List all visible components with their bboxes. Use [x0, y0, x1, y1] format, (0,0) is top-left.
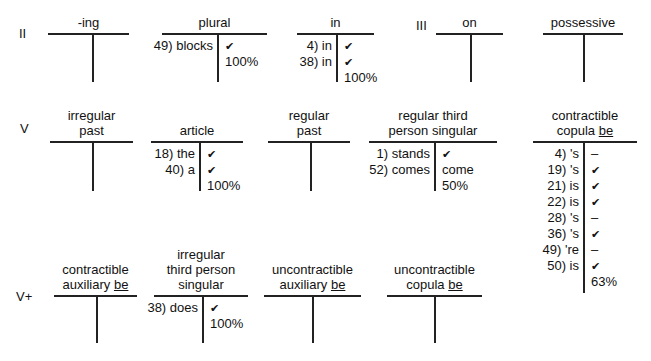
t-chart-title: uncontractiblecopula be	[394, 262, 475, 292]
title-line: person singular	[389, 123, 478, 138]
utterance-column: 38) does	[147, 300, 198, 316]
t-chart-horizontal-line	[162, 33, 267, 35]
check-mark-icon: ✔	[591, 226, 617, 242]
t-chart-title: regular thirdperson singular	[389, 108, 478, 138]
score-column: ✔✔100%	[344, 38, 377, 86]
t-chart-title: uncontractibleauxiliary be	[272, 262, 353, 292]
check-mark-icon: ✔	[591, 258, 617, 274]
check-mark-icon: ✔	[591, 162, 617, 178]
title-line: copula be	[552, 123, 618, 138]
title-line: in	[330, 15, 340, 30]
t-chart-vertical-line	[92, 141, 94, 191]
check-mark-icon: ✔	[591, 178, 617, 194]
percentage-score: 100%	[225, 54, 258, 70]
title-line: auxiliary be	[272, 277, 353, 292]
title-underlined-word: be	[331, 277, 345, 292]
utterance-entry: 1) stands	[369, 146, 430, 162]
t-chart-title: plural	[199, 15, 231, 30]
title-line: irregular	[68, 108, 116, 123]
t-chart-title: possessive	[551, 15, 615, 30]
t-chart-horizontal-line	[268, 141, 350, 143]
t-chart-title: irregularthird personsingular	[167, 247, 236, 292]
title-line: past	[68, 123, 116, 138]
t-chart-vertical-line	[199, 141, 201, 191]
check-mark-icon: ✔	[210, 300, 243, 316]
dash-icon: –	[591, 242, 617, 258]
t-chart-vertical-line	[92, 33, 94, 82]
t-chart-horizontal-line	[533, 141, 637, 143]
utterance-entry: 38) in	[299, 54, 332, 70]
utterance-entry: 50) is	[543, 258, 579, 274]
title-line: regular third	[389, 108, 478, 123]
utterance-entry: 38) does	[147, 300, 198, 316]
utterance-entry: 19) 's	[543, 162, 579, 178]
title-line: plural	[199, 15, 231, 30]
utterance-column: 49) blocks	[154, 38, 213, 54]
t-chart-vertical-line	[312, 295, 314, 343]
t-chart-title: contractibleauxiliary be	[62, 262, 128, 292]
title-line: uncontractible	[272, 262, 353, 277]
utterance-entry: 4) 's	[543, 146, 579, 162]
utterance-entry: 49) 're	[543, 242, 579, 258]
score-column: ✔come50%	[442, 146, 474, 194]
t-chart-vertical-line	[96, 295, 98, 343]
t-chart-vertical-line	[434, 141, 436, 191]
utterance-entry: 28) 's	[543, 210, 579, 226]
t-chart-title: in	[330, 15, 340, 30]
score-column: ✔100%	[225, 38, 258, 70]
dash-icon: –	[591, 146, 617, 162]
dash-icon: –	[591, 210, 617, 226]
title-underlined-word: be	[599, 123, 613, 138]
utterance-entry: 22) is	[543, 194, 579, 210]
utterance-column: 18) the40) a	[155, 146, 195, 178]
check-mark-icon: ✔	[344, 38, 377, 54]
utterance-entry: 52) comes	[369, 162, 430, 178]
percentage-score: 50%	[442, 178, 474, 194]
t-chart-title: irregularpast	[68, 108, 116, 138]
t-chart-vertical-line	[583, 33, 585, 82]
percentage-score: 100%	[207, 178, 240, 194]
title-line: irregular	[167, 247, 236, 262]
utterance-entry: 4) in	[299, 38, 332, 54]
percentage-score: 100%	[210, 316, 243, 332]
check-mark-icon: ✔	[225, 38, 258, 54]
title-line: possessive	[551, 15, 615, 30]
stage-label-ii: II	[19, 26, 26, 41]
t-chart-horizontal-line	[369, 141, 497, 143]
t-chart-title: regularpast	[289, 108, 329, 138]
utterance-entry: 21) is	[543, 178, 579, 194]
score-entry: come	[442, 162, 474, 178]
check-mark-icon: ✔	[344, 54, 377, 70]
score-column: ✔100%	[210, 300, 243, 332]
title-underlined-word: be	[448, 277, 462, 292]
stage-label-v-plus: V+	[16, 289, 32, 304]
title-line: regular	[289, 108, 329, 123]
stage-label-iii: III	[416, 18, 427, 33]
utterance-column: 1) stands52) comes	[369, 146, 430, 178]
title-line: copula be	[394, 277, 475, 292]
t-chart-vertical-line	[434, 295, 436, 343]
utterance-entry: 36) 's	[543, 226, 579, 242]
utterance-entry: 49) blocks	[154, 38, 213, 54]
utterance-column: 4) in38) in	[299, 38, 332, 70]
check-mark-icon: ✔	[591, 194, 617, 210]
title-line: contractible	[552, 108, 618, 123]
t-chart-vertical-line	[336, 33, 338, 82]
score-column: –✔✔✔–✔–✔63%	[591, 146, 617, 290]
check-mark-icon: ✔	[207, 162, 240, 178]
percentage-score: 100%	[344, 70, 377, 86]
title-line: third person	[167, 262, 236, 277]
t-chart-title: on	[462, 15, 476, 30]
title-line: -ing	[78, 15, 100, 30]
t-chart-vertical-line	[583, 141, 585, 293]
t-chart-title: article	[180, 123, 215, 138]
percentage-score: 63%	[591, 274, 617, 290]
utterance-entry: 18) the	[155, 146, 195, 162]
t-chart-vertical-line	[470, 33, 472, 82]
check-mark-icon: ✔	[442, 146, 474, 162]
check-mark-icon: ✔	[207, 146, 240, 162]
stage-label-v: V	[20, 121, 29, 136]
title-line: singular	[167, 277, 236, 292]
utterance-column: 4) 's19) 's21) is22) is28) 's36) 's49) '…	[543, 146, 579, 274]
t-chart-vertical-line	[310, 141, 312, 191]
